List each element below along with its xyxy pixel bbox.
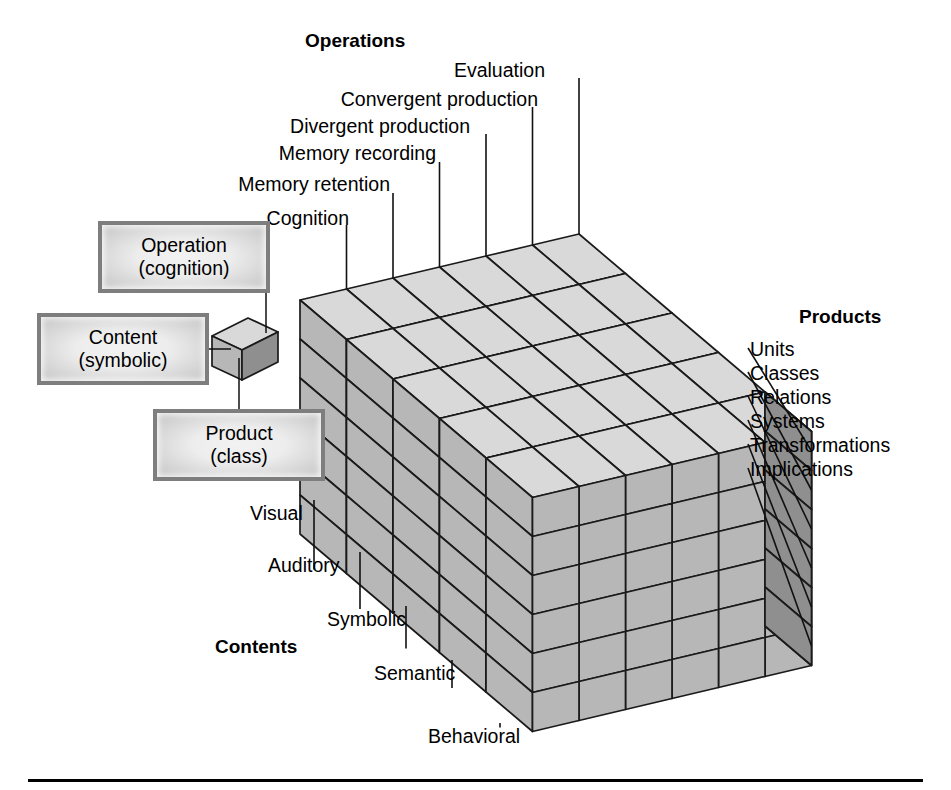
operations-label-memory-retention: Memory retention xyxy=(0,175,390,195)
contents-label-symbolic: Symbolic xyxy=(327,610,406,630)
products-label-units: Units xyxy=(750,340,794,360)
contents-label-auditory: Auditory xyxy=(268,556,340,576)
legend-box-content: Content (symbolic) xyxy=(37,313,209,385)
products-label-transformations: Transformations xyxy=(750,436,890,456)
contents-label-semantic: Semantic xyxy=(374,664,455,684)
legend-box-content-line2: (symbolic) xyxy=(79,349,168,372)
products-label-relations: Relations xyxy=(750,388,831,408)
operations-label-evaluation: Evaluation xyxy=(0,61,545,81)
contents-label-behavioral: Behavioral xyxy=(428,727,520,747)
contents-axis-title: Contents xyxy=(215,637,297,656)
legend-box-content-line1: Content xyxy=(89,326,157,349)
legend-box-product-line1: Product xyxy=(205,422,272,445)
legend-box-operation-line2: (cognition) xyxy=(138,257,229,280)
bottom-divider-rule xyxy=(28,779,923,782)
operations-label-divergent-production: Divergent production xyxy=(0,117,470,137)
products-label-implications: Implications xyxy=(750,460,853,480)
products-axis-title: Products xyxy=(799,307,881,326)
products-label-systems: Systems xyxy=(750,412,825,432)
legend-box-product: Product (class) xyxy=(153,409,325,481)
products-label-classes: Classes xyxy=(750,364,819,384)
structure-of-intellect-figure: Operations Cognition Memory retention Me… xyxy=(0,0,951,790)
operations-label-memory-recording: Memory recording xyxy=(0,144,436,164)
legend-box-product-line2: (class) xyxy=(210,445,267,468)
legend-box-operation-line1: Operation xyxy=(141,234,227,257)
operations-axis-title: Operations xyxy=(305,31,405,50)
contents-label-visual: Visual xyxy=(250,504,303,524)
legend-box-operation: Operation (cognition) xyxy=(98,221,270,293)
operations-label-convergent-production: Convergent production xyxy=(0,90,538,110)
